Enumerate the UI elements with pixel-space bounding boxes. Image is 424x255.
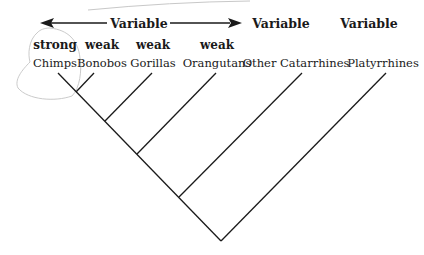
branch-spine [58, 73, 221, 241]
taxon-other-catarrhines: Other Catarrhines [243, 56, 350, 70]
strength-orangutans: weak [200, 38, 234, 52]
strength-bonobos: weak [85, 38, 119, 52]
header-platyrrhines: Variable [340, 16, 398, 31]
branch-gorillas [105, 73, 152, 121]
taxon-platyrrhines: Platyrrhines [347, 56, 419, 70]
taxon-chimps: Chimps [33, 56, 77, 70]
taxon-orangutans: Orangutans [183, 56, 252, 70]
taxon-gorillas: Gorillas [130, 56, 175, 70]
header-other-catarrhines: Variable [252, 16, 310, 31]
arrowhead-right-icon [228, 18, 242, 28]
strength-chimps: strong [33, 38, 77, 52]
range-arrow-label: Variable [110, 16, 168, 31]
strength-gorillas: weak [136, 38, 170, 52]
taxon-bonobos: Bonobos [77, 56, 127, 70]
branch-platyrrhines [221, 73, 386, 241]
branch-orangutans [137, 73, 216, 154]
annotation-stroke-top [88, 1, 250, 10]
tree-branches [58, 73, 386, 241]
